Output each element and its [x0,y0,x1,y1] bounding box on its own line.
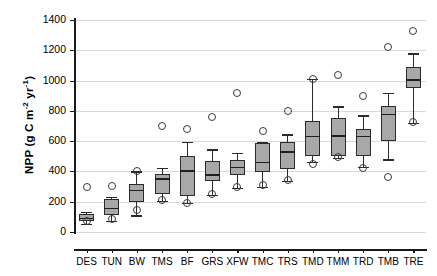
box-iqr [180,156,195,197]
x-axis-tick-label-bw: BW [124,256,149,267]
box-iqr [331,118,346,156]
median-line [305,136,320,138]
plot-area [74,20,426,232]
whisker-cap-upper [408,53,419,54]
outlier-point [359,164,367,172]
x-axis-tick-label-tre: TRE [401,256,426,267]
outlier-point [309,75,317,83]
x-axis-tick-label-tmb: TMB [376,256,401,267]
x-axis-tick-label-xfw: XFW [225,256,250,267]
whisker-upper [388,93,389,107]
median-line [356,136,371,138]
whisker-cap-upper [182,142,193,143]
box-iqr [129,184,144,202]
outlier-point [108,215,116,223]
gridline [74,232,426,233]
box-iqr [406,67,421,88]
outlier-point [158,122,166,130]
x-axis-tick-mark [237,249,238,253]
median-line [205,174,220,176]
whisker-cap-upper [333,106,344,107]
median-line [104,208,119,210]
whisker-lower [388,141,389,159]
x-axis-tick-label-tms: TMS [149,256,174,267]
y-axis-title-sup-2: -1 [21,80,30,88]
median-line [230,167,245,169]
x-axis-line [74,249,427,251]
box-iqr [280,142,295,169]
whisker-cap-upper [383,93,394,94]
whisker-upper [413,53,414,67]
box-plot-chart: NPP (g C m-2 yr-1) 020040060080010001200… [0,0,437,276]
whisker-cap-upper [358,115,369,116]
median-line [129,190,144,192]
outlier-point [133,206,141,214]
x-axis-tick-mark [338,249,339,253]
x-axis-tick-mark [137,249,138,253]
median-line [280,151,295,153]
whisker-cap-lower [131,215,142,216]
x-axis-tick-label-trs: TRS [275,256,300,267]
whisker-upper [363,115,364,129]
whisker-cap-upper [207,149,218,150]
x-axis-tick-mark [313,249,314,253]
x-axis-tick-mark [112,249,113,253]
y-axis-tick-label: 1200 [32,44,66,54]
whisker-cap-upper [157,168,168,169]
box-iqr [381,106,396,141]
x-axis-tick-mark [162,249,163,253]
x-axis-tick-mark [288,249,289,253]
x-axis-tick-label-des: DES [74,256,99,267]
y-axis-title-mid: yr [23,87,35,102]
y-axis-tick-label: 200 [32,196,66,206]
x-axis-tick-label-grs: GRS [200,256,225,267]
median-line [331,135,346,137]
outlier-point [83,183,91,191]
y-axis-tick-label: 1000 [32,75,66,85]
box-iqr [305,121,320,156]
x-axis-tick-mark [413,249,414,253]
outlier-point [384,43,392,51]
outlier-point [309,160,317,168]
x-axis-tick-mark [363,249,364,253]
whisker-upper [187,142,188,156]
whisker-cap-upper [81,212,92,213]
x-axis-tick-label-trd: TRD [351,256,376,267]
x-axis-tick-label-tun: TUN [99,256,124,267]
x-axis-tick-mark [87,249,88,253]
whisker-upper [338,106,339,118]
outlier-point [334,153,342,161]
box-iqr [255,143,270,172]
x-axis-tick-mark [388,249,389,253]
median-line [155,178,170,180]
outlier-point [359,92,367,100]
outlier-point [259,181,267,189]
x-axis-tick-mark [263,249,264,253]
outlier-point [233,183,241,191]
outlier-point [259,127,267,135]
y-axis-tick-label: 0 [32,226,66,236]
median-line [381,114,396,116]
outlier-point [108,182,116,190]
x-axis-tick-label-tmd: TMD [300,256,325,267]
whisker-cap-upper [232,153,243,154]
y-axis-tick-label: 400 [32,165,66,175]
median-line [180,170,195,172]
y-axis-tick-label: 800 [32,105,66,115]
x-axis-tick-mark [187,249,188,253]
whisker-upper [312,79,313,121]
x-axis-tick-mark [212,249,213,253]
box-iqr [356,129,371,156]
median-line [406,79,421,81]
y-axis-tick-label: 1400 [32,14,66,24]
whisker-cap-upper [106,197,117,198]
whisker-upper [212,149,213,160]
whisker-cap-upper [282,134,293,135]
outlier-point [334,71,342,79]
median-line [255,162,270,164]
x-axis-tick-label-tmc: TMC [250,256,275,267]
y-axis-tick-label: 600 [32,135,66,145]
outlier-point [284,107,292,115]
x-axis-tick-label-tmm: TMM [325,256,350,267]
x-axis-tick-label-bf: BF [175,256,200,267]
